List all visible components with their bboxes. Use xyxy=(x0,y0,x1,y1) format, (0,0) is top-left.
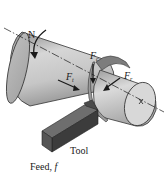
label-cutting-force: Fc xyxy=(89,50,99,62)
turning-diagram: N Fc Ft Fr Tool Feed, f xyxy=(0,0,166,187)
label-rotation-N: N xyxy=(28,29,35,40)
label-feed: Feed, f xyxy=(30,161,58,172)
label-tool: Tool xyxy=(70,145,88,156)
label-radial-force: Fr xyxy=(123,70,133,82)
